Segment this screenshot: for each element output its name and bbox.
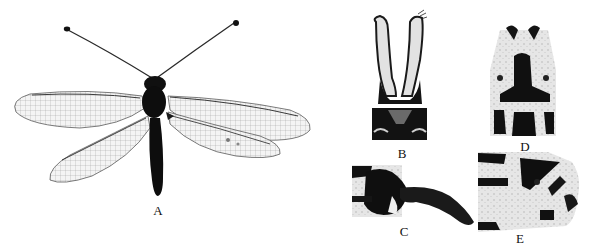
panel-label-e: E	[516, 232, 524, 245]
panel-label-d: D	[520, 140, 529, 153]
figure-plate: A B C D E	[0, 0, 591, 249]
panel-d-specimen	[490, 25, 556, 136]
panel-a-specimen	[15, 20, 311, 196]
figure-drawing	[0, 0, 591, 249]
panel-label-b: B	[398, 147, 407, 160]
panel-e-specimen	[478, 152, 579, 232]
panel-label-c: C	[400, 225, 409, 238]
panel-c-specimen	[352, 165, 474, 225]
panel-b-specimen	[372, 10, 427, 140]
panel-label-a: A	[153, 204, 162, 217]
